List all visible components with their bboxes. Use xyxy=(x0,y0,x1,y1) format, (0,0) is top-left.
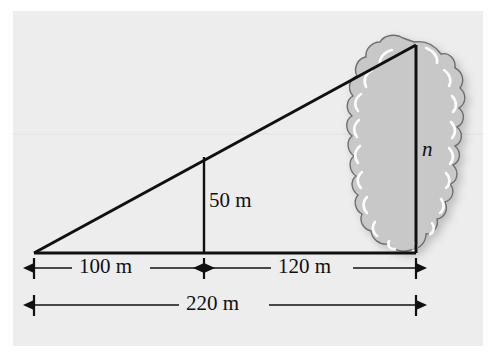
label-segment-120m: 120 m xyxy=(278,256,331,277)
label-segment-100m: 100 m xyxy=(79,256,132,277)
label-height-50m: 50 m xyxy=(209,190,252,211)
label-segment-220m: 220 m xyxy=(186,293,239,314)
tree-blob xyxy=(347,35,465,251)
label-unknown-height-n: n xyxy=(422,139,433,160)
tree-blob-outline xyxy=(347,35,465,251)
figure-container: 50 m 100 m 120 m 220 m n xyxy=(0,0,493,359)
